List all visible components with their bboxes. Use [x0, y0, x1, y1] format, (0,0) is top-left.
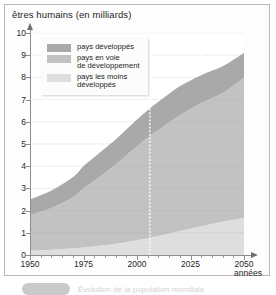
x-tick-minor-mark: [73, 255, 74, 258]
y-axis-arrow-icon: [27, 23, 33, 30]
x-tick-minor-mark: [169, 255, 170, 258]
x-axis-arrow-icon: [251, 252, 258, 258]
chart-title: êtres humains (en milliards): [12, 9, 131, 20]
y-tick-mark: [26, 188, 31, 189]
figure-root: êtres humains (en milliards) 01234567891…: [0, 0, 276, 295]
legend-item-label: pays les moinsdéveloppés: [77, 73, 127, 90]
y-tick-mark: [26, 55, 31, 56]
y-tick-label: 1: [4, 228, 26, 238]
x-tick-label: 1950: [21, 259, 40, 269]
x-tick-mark: [191, 255, 192, 260]
x-tick-mark: [244, 255, 245, 260]
y-tick-label: 4: [4, 161, 26, 171]
chart-legend: pays développéspays en voiede développem…: [41, 38, 148, 95]
caption-badge: [22, 283, 70, 295]
y-tick-mark: [26, 144, 31, 145]
caption-text: Évolution de la population mondiale: [78, 285, 204, 294]
x-tick-mark: [137, 255, 138, 260]
x-tick-minor-mark: [51, 255, 52, 258]
legend-item-label: pays en voiede développement: [77, 54, 140, 71]
x-tick-minor-mark: [105, 255, 106, 258]
y-tick-mark: [26, 33, 31, 34]
y-tick-label: 2: [4, 206, 26, 216]
y-tick-mark: [26, 233, 31, 234]
x-tick-minor-mark: [116, 255, 117, 258]
legend-swatch-developed: [47, 44, 71, 52]
legend-item[interactable]: pays développés: [45, 43, 143, 52]
x-tick-minor-mark: [126, 255, 127, 258]
y-tick-label: 5: [4, 139, 26, 149]
y-tick-label: 10: [4, 28, 26, 38]
y-tick-labels: 012345678910: [0, 0, 26, 295]
x-tick-minor-mark: [180, 255, 181, 258]
x-tick-minor-mark: [158, 255, 159, 258]
y-tick-mark: [26, 211, 31, 212]
x-tick-label: 2025: [181, 259, 200, 269]
y-tick-label: 6: [4, 117, 26, 127]
legend-item[interactable]: pays en voiede développement: [45, 54, 143, 71]
bottom-caption-strip: Évolution de la population mondiale: [0, 281, 276, 295]
y-tick-mark: [26, 100, 31, 101]
y-tick-mark: [26, 77, 31, 78]
x-tick-minor-mark: [223, 255, 224, 258]
y-tick-label: 7: [4, 95, 26, 105]
x-tick-label: 1975: [74, 259, 93, 269]
y-tick-label: 8: [4, 72, 26, 82]
x-tick-mark: [30, 255, 31, 260]
x-tick-minor-mark: [212, 255, 213, 258]
y-tick-mark: [26, 166, 31, 167]
y-tick-label: 9: [4, 50, 26, 60]
x-axis-title: années: [234, 268, 262, 278]
legend-item[interactable]: pays les moinsdéveloppés: [45, 73, 143, 90]
y-tick-mark: [26, 122, 31, 123]
legend-swatch-developing: [47, 55, 71, 63]
x-tick-label: 2000: [128, 259, 147, 269]
x-tick-mark: [84, 255, 85, 260]
x-tick-minor-mark: [41, 255, 42, 258]
y-tick-label: 3: [4, 183, 26, 193]
x-tick-minor-mark: [94, 255, 95, 258]
x-tick-minor-mark: [233, 255, 234, 258]
x-tick-label: 2050: [235, 259, 254, 269]
x-tick-minor-mark: [148, 255, 149, 258]
legend-item-label: pays développés: [77, 43, 134, 51]
legend-swatch-least-developed: [47, 74, 71, 82]
x-tick-minor-mark: [201, 255, 202, 258]
x-tick-minor-mark: [62, 255, 63, 258]
